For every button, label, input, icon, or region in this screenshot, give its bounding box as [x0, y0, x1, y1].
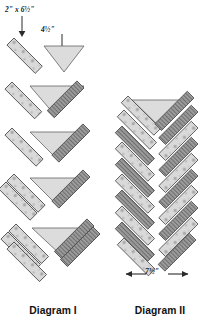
- quilt-diagram-svg: [0, 0, 212, 322]
- block-width-label: 7½": [145, 268, 159, 276]
- triangle-size-label: 4½": [41, 26, 55, 33]
- diagram-one-caption: Diagram I: [29, 305, 76, 316]
- strip-size-label: 2" x 6½": [5, 6, 34, 13]
- diagram-canvas: 2" x 6½" 4½" 7½" Diagram I Diagram II: [0, 0, 212, 322]
- diagram-two-caption: Diagram II: [135, 305, 185, 316]
